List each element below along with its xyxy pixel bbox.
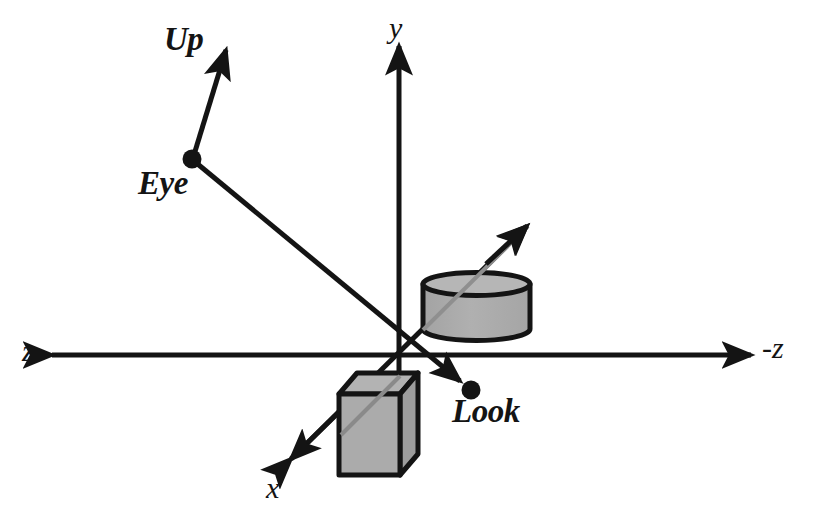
cube-right-face <box>400 373 418 475</box>
axis-label-y: y <box>389 11 402 45</box>
eye-point-label: Eye <box>138 165 188 202</box>
up-vector-group <box>193 50 226 158</box>
cube-object <box>339 373 418 475</box>
cylinder-object <box>423 226 530 341</box>
camera-frame-diagram: y z -z x Up Eye Look <box>0 0 819 518</box>
axis-label-z: z <box>22 334 34 368</box>
x-axis-upper-segment <box>486 226 527 264</box>
axis-label-x: x <box>266 471 279 505</box>
up-vector-line <box>193 50 226 158</box>
axis-label-negative-z: -z <box>762 331 784 365</box>
look-point-label: Look <box>452 393 520 430</box>
scene-canvas <box>0 0 819 518</box>
look-ray-group <box>194 161 460 381</box>
look-vector-line <box>194 161 460 381</box>
x-axis-lower-segment <box>291 412 339 459</box>
up-vector-label: Up <box>164 21 203 58</box>
